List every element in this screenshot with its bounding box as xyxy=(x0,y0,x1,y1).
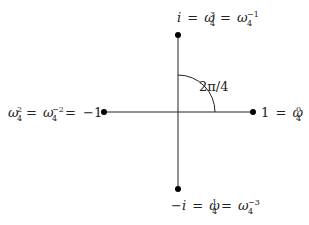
svg-text:4: 4 xyxy=(210,19,215,28)
svg-text:= ω: = ω xyxy=(220,10,248,25)
svg-text:1: 1 xyxy=(212,198,217,207)
svg-text:4: 4 xyxy=(247,19,252,28)
svg-text:4: 4 xyxy=(248,207,253,216)
roots-of-unity-diagram: 2π/4 1 = ω 0 4 i = ω 3 4 = ω −1 4 ω 2 4 … xyxy=(0,0,309,225)
svg-text:4: 4 xyxy=(17,114,22,123)
label-right: 1 = ω 0 4 xyxy=(261,105,303,123)
svg-text:4: 4 xyxy=(52,114,57,123)
angle-label: 2π/4 xyxy=(199,79,228,94)
point-right xyxy=(250,109,256,115)
label-top: i = ω 3 4 = ω −1 4 xyxy=(177,10,259,28)
svg-text:= ω: = ω xyxy=(221,198,249,213)
svg-text:= ω: = ω xyxy=(26,105,54,120)
svg-text:3: 3 xyxy=(210,10,215,19)
label-left: ω 2 4 = ω −2 4 = −1 xyxy=(8,105,102,123)
svg-text:2: 2 xyxy=(17,105,22,114)
point-bottom xyxy=(175,186,181,192)
svg-text:4: 4 xyxy=(296,114,301,123)
label-bottom: −i = ω 1 4 = ω −3 4 xyxy=(171,198,260,216)
svg-text:= −1: = −1 xyxy=(65,105,102,120)
svg-text:−3: −3 xyxy=(248,198,260,207)
point-top xyxy=(175,32,181,38)
svg-text:4: 4 xyxy=(212,207,217,216)
svg-text:0: 0 xyxy=(296,105,301,114)
svg-text:−1: −1 xyxy=(247,10,259,19)
svg-text:−2: −2 xyxy=(52,105,64,114)
